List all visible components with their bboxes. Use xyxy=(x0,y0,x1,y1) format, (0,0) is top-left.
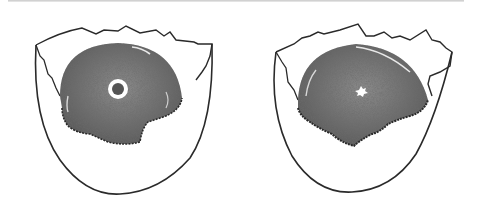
egg-illustration xyxy=(0,0,480,212)
left-egg xyxy=(36,26,213,194)
right-egg xyxy=(274,24,452,192)
left-germinal-disc-ring xyxy=(108,79,128,99)
